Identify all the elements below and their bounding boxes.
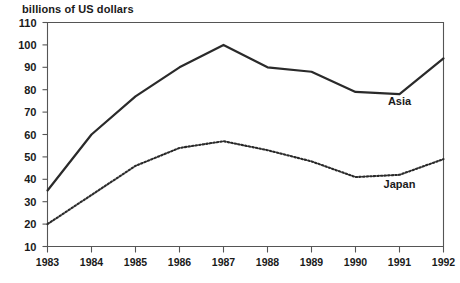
x-tick-label: 1991 bbox=[388, 256, 412, 268]
y-tick-label: 40 bbox=[24, 173, 36, 185]
x-tick-label: 1983 bbox=[36, 256, 60, 268]
series-line-asia bbox=[48, 45, 444, 191]
series-label-japan: Japan bbox=[384, 178, 416, 190]
data-series-group bbox=[48, 45, 444, 224]
line-chart: billions of US dollars 10203040506070809… bbox=[0, 0, 460, 283]
y-axis-tick-labels: 102030405060708090100110 bbox=[18, 17, 36, 253]
x-tick-label: 1984 bbox=[80, 256, 104, 268]
y-tick-label: 10 bbox=[24, 241, 36, 253]
x-tick-label: 1990 bbox=[344, 256, 368, 268]
x-axis-tick-labels: 1983198419851986198719881989199019911992 bbox=[36, 256, 456, 268]
y-tick-label: 20 bbox=[24, 218, 36, 230]
y-tick-label: 50 bbox=[24, 151, 36, 163]
chart-plot-area: 102030405060708090100110 198319841985198… bbox=[0, 0, 460, 283]
y-tick-label: 100 bbox=[18, 39, 36, 51]
y-tick-label: 90 bbox=[24, 61, 36, 73]
y-tick-label: 110 bbox=[19, 17, 37, 29]
y-axis-tick-marks bbox=[43, 23, 48, 247]
x-tick-label: 1992 bbox=[432, 256, 456, 268]
x-tick-label: 1989 bbox=[300, 256, 324, 268]
x-tick-label: 1986 bbox=[168, 256, 192, 268]
x-axis-tick-marks bbox=[48, 247, 444, 253]
x-tick-label: 1985 bbox=[124, 256, 148, 268]
y-tick-label: 60 bbox=[24, 129, 36, 141]
y-tick-label: 80 bbox=[24, 84, 36, 96]
y-tick-label: 70 bbox=[24, 106, 36, 118]
y-tick-label: 30 bbox=[24, 196, 36, 208]
x-tick-label: 1988 bbox=[256, 256, 280, 268]
x-tick-label: 1987 bbox=[212, 256, 236, 268]
series-label-asia: Asia bbox=[388, 95, 412, 107]
